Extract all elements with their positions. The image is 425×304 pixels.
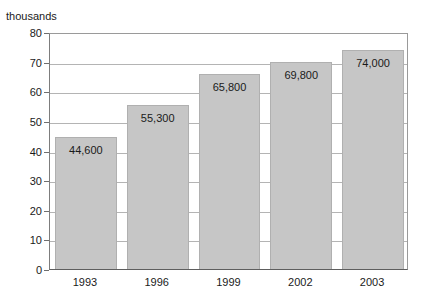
y-tick-label: 50 (2, 117, 42, 128)
bar-value-label: 55,300 (128, 112, 188, 124)
bar: 55,300 (127, 105, 189, 269)
bar-value-label: 69,800 (271, 69, 331, 81)
y-tick-label: 10 (2, 235, 42, 246)
y-tick-label: 80 (2, 28, 42, 39)
x-tick-label: 1996 (121, 276, 193, 288)
y-tick-label: 0 (2, 265, 42, 276)
bar: 44,600 (55, 137, 117, 269)
x-tick-label: 2003 (336, 276, 408, 288)
y-tick-label: 60 (2, 87, 42, 98)
bar: 69,800 (270, 62, 332, 269)
y-tick-label: 20 (2, 206, 42, 217)
y-axis-unit-caption: thousands (6, 10, 57, 22)
bar-chart: thousands 01020304050607080 44,60055,300… (0, 0, 425, 304)
y-tick-mark (44, 270, 49, 271)
bar: 74,000 (342, 50, 404, 269)
bar: 65,800 (199, 74, 261, 269)
x-tick-label: 2002 (264, 276, 336, 288)
bar-value-label: 44,600 (56, 144, 116, 156)
y-tick-label: 40 (2, 147, 42, 158)
plot-area: 44,60055,30065,80069,80074,000 (49, 33, 408, 270)
y-tick-label: 70 (2, 58, 42, 69)
bar-value-label: 74,000 (343, 57, 403, 69)
y-tick-label: 30 (2, 176, 42, 187)
bars-layer: 44,60055,30065,80069,80074,000 (50, 34, 407, 269)
x-tick-label: 1999 (193, 276, 265, 288)
x-tick-label: 1993 (49, 276, 121, 288)
bar-value-label: 65,800 (200, 81, 260, 93)
